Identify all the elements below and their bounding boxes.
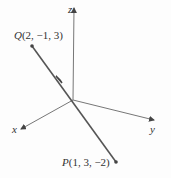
- z-axis-label: z: [68, 4, 72, 15]
- y-axis-label: y: [150, 124, 155, 135]
- point-Q-name: Q: [14, 29, 22, 41]
- point-Q-coords: (2, −1, 3): [22, 29, 63, 41]
- segment-PQ: [32, 46, 116, 162]
- axes-and-segment: [0, 0, 171, 178]
- point-Q: [30, 44, 34, 48]
- y-axis: [73, 100, 154, 120]
- point-Q-label: Q(2, −1, 3): [14, 30, 63, 41]
- x-axis: [21, 100, 73, 129]
- point-P-coords: (1, 3, −2): [69, 156, 110, 168]
- x-axis-label: x: [12, 124, 17, 135]
- point-P-name: P: [62, 156, 69, 168]
- point-P: [114, 160, 118, 164]
- z-axis: [73, 8, 74, 100]
- point-P-label: P(1, 3, −2): [62, 157, 110, 168]
- vector-diagram: z y x Q(2, −1, 3) P(1, 3, −2): [0, 0, 171, 178]
